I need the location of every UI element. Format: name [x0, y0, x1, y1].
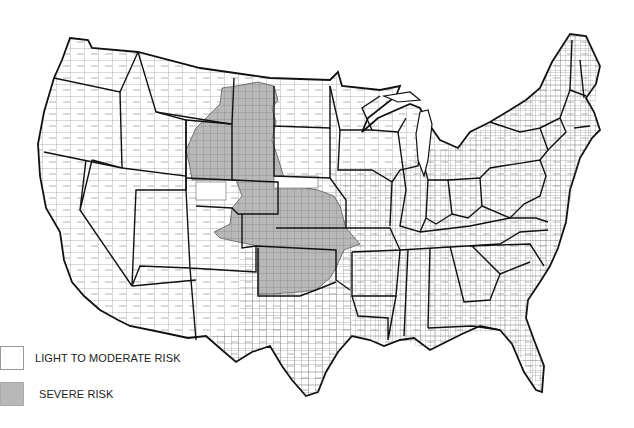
legend-swatch-severe [0, 382, 24, 406]
legend-label-light: LIGHT TO MODERATE RISK [35, 352, 181, 364]
legend-swatch-light [0, 346, 24, 370]
legend-item-light: LIGHT TO MODERATE RISK [0, 346, 181, 370]
legend-item-severe: SEVERE RISK [0, 382, 113, 406]
legend-label-severe: SEVERE RISK [39, 388, 113, 400]
